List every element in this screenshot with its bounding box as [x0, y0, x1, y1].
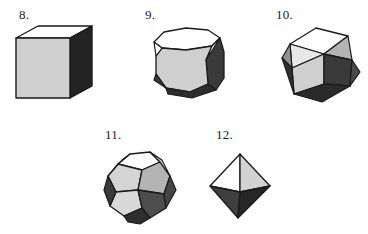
cuboctahedron-triangle-lower-right	[350, 60, 360, 86]
figure-8-artwork	[14, 24, 96, 104]
cube-right-face	[70, 26, 92, 98]
figure-9-label: 9.	[145, 8, 155, 21]
figure-11-label: 11.	[105, 128, 121, 141]
cuboctahedron-front-right-square	[324, 54, 352, 86]
figure-12-artwork	[204, 148, 278, 222]
octahedron-lower-left-face	[210, 186, 240, 218]
dodecahedron-svg	[98, 146, 180, 226]
truncated-cube-svg	[142, 24, 228, 104]
figure-11-artwork	[98, 146, 180, 226]
figure-9-artwork	[142, 24, 228, 104]
cuboctahedron-svg	[274, 24, 362, 106]
figure-10-label: 10.	[276, 8, 293, 21]
octahedron-svg	[204, 148, 278, 222]
octahedron-lower-right-face	[238, 186, 270, 218]
cube-svg	[14, 24, 96, 104]
figure-8-label: 8.	[19, 8, 29, 21]
figure-12-label: 12.	[216, 128, 233, 141]
cube-front-face	[16, 38, 70, 98]
figure-10-artwork	[274, 24, 362, 106]
